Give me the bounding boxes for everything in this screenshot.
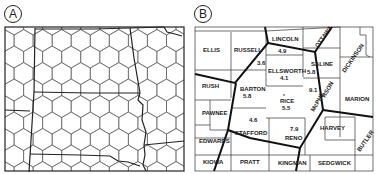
value-lincoln: 4.9 (278, 48, 287, 54)
county-edwards: EDWARDS (199, 138, 230, 144)
value-saline: 5.8 (307, 69, 316, 75)
county-ellsworth: ELLSWORTH (268, 68, 306, 74)
county-reno: RENO (285, 135, 303, 141)
county-russell: RUSSELL (234, 47, 262, 53)
value-barton: 5.8 (243, 93, 252, 99)
county-lincoln: LINCOLN (272, 36, 299, 42)
panel-b-county-map: ELLIS RUSSELL LINCOLN OTTAWA DICKINSON S… (0, 0, 378, 174)
value-russell: 3.6 (257, 60, 266, 66)
county-butler: BUTLER (356, 129, 375, 153)
value-ellsworth: 4.1 (280, 75, 289, 81)
county-dickinson: DICKINSON (341, 43, 365, 74)
rice-dot-marker (283, 94, 285, 96)
value-mcpherson: 9.1 (309, 87, 318, 93)
value-rice: 5.5 (282, 105, 291, 111)
county-kingman: KINGMAN (278, 160, 307, 166)
county-harvey: HARVEY (320, 125, 345, 131)
county-barton: BARTON (240, 86, 266, 92)
county-mcpherson-part2: RSON (321, 80, 335, 98)
county-pawnee: PAWNEE (202, 110, 228, 116)
county-saline: SALINE (311, 61, 333, 67)
county-ellis: ELLIS (203, 47, 220, 53)
county-marion: MARION (345, 96, 369, 102)
county-sedgwick: SEDGWICK (318, 160, 352, 166)
value-reno: 7.9 (290, 126, 299, 132)
county-rush: RUSH (202, 83, 219, 89)
county-rice: RICE (280, 98, 294, 104)
county-stafford: STAFFORD (235, 130, 268, 136)
value-stafford: 4.6 (249, 117, 258, 123)
county-pratt: PRATT (240, 159, 260, 165)
county-kiowa: KIOWA (203, 159, 224, 165)
